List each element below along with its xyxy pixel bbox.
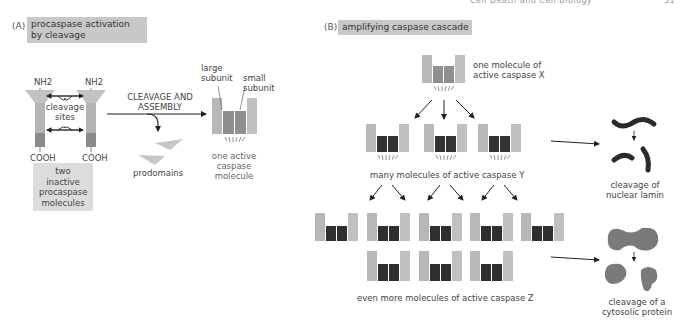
- prodomains-label: prodomains: [133, 168, 183, 178]
- active-caption-line1: one active: [208, 151, 260, 161]
- cleavage-assembly-label: CLEAVAGE AND ASSEMBLY: [118, 92, 202, 112]
- large-subunit-label: large subunit: [201, 63, 233, 83]
- caspase-x-line2: active caspase X: [473, 70, 545, 80]
- caspase-z-row2: [367, 251, 513, 281]
- cytosolic-protein-caption: cleavage of a cytosolic protein: [598, 297, 676, 317]
- prodomains-shapes: [138, 139, 183, 165]
- caspase-x: [422, 55, 465, 91]
- lamin-line1: cleavage of: [600, 180, 670, 190]
- caspase-y-group: [366, 124, 521, 160]
- one-active-caspase-caption: one active caspase molecule: [208, 151, 260, 181]
- panel-b-letter: (B): [324, 22, 337, 32]
- small-subunit-label: small subunit: [243, 73, 275, 93]
- large-subunit-line1: large: [201, 63, 233, 73]
- caspase-x-label: one molecule of active caspase X: [473, 60, 545, 80]
- cyto-line1: cleavage of a: [598, 297, 676, 307]
- inactive-caption-line2: procaspase: [39, 187, 87, 198]
- caspase-y-label: many molecules of active caspase Y: [370, 170, 524, 180]
- cleavage-assembly-arrow: [107, 114, 206, 131]
- caspase-z-label: even more molecules of active caspase Z: [357, 293, 534, 303]
- caspase-x-line1: one molecule of: [473, 60, 545, 70]
- active-caption-line3: molecule: [208, 171, 260, 181]
- inactive-procaspase-caption: two inactive procaspase molecules: [33, 163, 93, 211]
- small-subunit-line2: subunit: [243, 83, 275, 93]
- arrows-x-to-y: [415, 100, 474, 119]
- panel-b-title: amplifying caspase cascade: [338, 20, 472, 35]
- nh2-left-label: NH2: [34, 77, 52, 87]
- cleavage-sites-line1: cleavage: [44, 102, 86, 112]
- cleavage-assembly-line1: CLEAVAGE AND: [118, 92, 202, 102]
- inactive-caption-line1: two inactive: [39, 166, 87, 187]
- active-caspase-a: [212, 86, 257, 142]
- diagram-graphics: [0, 0, 680, 329]
- nuclear-lamin-caption: cleavage of nuclear lamin: [600, 180, 670, 200]
- inactive-caption-line3: molecules: [39, 198, 87, 209]
- small-subunit-line1: small: [243, 73, 275, 83]
- nh2-right-label: NH2: [85, 77, 103, 87]
- arrows-to-substrates: [551, 141, 599, 260]
- nuclear-lamin: [614, 119, 654, 170]
- arrows-y-to-z: [370, 185, 517, 200]
- caspase-z-row1: [315, 213, 564, 241]
- lamin-line2: nuclear lamin: [600, 190, 670, 200]
- large-subunit-line2: subunit: [201, 73, 233, 83]
- cleavage-assembly-line2: ASSEMBLY: [118, 102, 202, 112]
- cooh-right-label: COOH: [82, 153, 108, 163]
- cyto-line2: cytosolic protein: [598, 307, 676, 317]
- active-caption-line2: caspase: [208, 161, 260, 171]
- cooh-left-label: COOH: [30, 153, 56, 163]
- cleavage-sites-line2: sites: [44, 112, 86, 122]
- cytosolic-protein: [605, 228, 658, 291]
- cleavage-sites-label: cleavage sites: [44, 102, 86, 122]
